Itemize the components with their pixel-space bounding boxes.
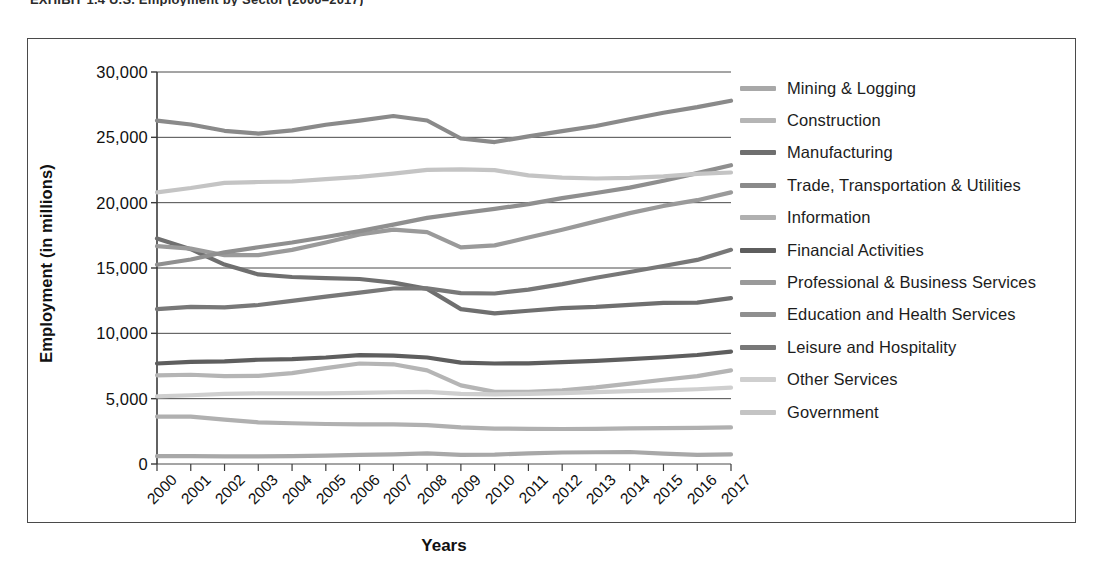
series-line [157, 417, 731, 429]
legend-swatch-icon [740, 215, 776, 220]
legend-item[interactable]: Construction [740, 104, 1040, 136]
legend-item-label: Government [787, 403, 879, 422]
x-tick-label: 2012 [549, 471, 586, 508]
legend-item[interactable]: Professional & Business Services [740, 266, 1040, 298]
series-line [157, 165, 731, 265]
x-tick-label: 2000 [144, 471, 181, 508]
legend-swatch-icon [740, 312, 776, 317]
series-lines [157, 72, 731, 464]
series-line [157, 101, 731, 142]
legend-item[interactable]: Government [740, 396, 1040, 428]
y-tick-label: 10,000 [74, 324, 148, 343]
legend-item-label: Professional & Business Services [787, 273, 1036, 292]
x-tick-label: 2014 [616, 471, 653, 508]
legend-item[interactable]: Other Services [740, 364, 1040, 396]
legend-item-label: Education and Health Services [787, 305, 1016, 324]
legend-item[interactable]: Trade, Transportation & Utilities [740, 169, 1040, 201]
legend-swatch-icon [740, 280, 776, 285]
series-line [157, 169, 731, 192]
x-tick-label: 2005 [312, 471, 349, 508]
legend-item[interactable]: Mining & Logging [740, 72, 1040, 104]
x-axis-title: Years [157, 536, 731, 556]
x-tick-label: 2004 [279, 471, 316, 508]
legend-item[interactable]: Information [740, 202, 1040, 234]
x-tick-label: 2007 [380, 471, 417, 508]
plot-area [157, 72, 731, 464]
legend-item[interactable]: Leisure and Hospitality [740, 331, 1040, 363]
legend-item[interactable]: Financial Activities [740, 234, 1040, 266]
legend-swatch-icon [740, 248, 776, 253]
legend-item-label: Financial Activities [787, 241, 924, 260]
series-line [157, 388, 731, 397]
legend-item[interactable]: Education and Health Services [740, 299, 1040, 331]
x-tick-label: 2003 [245, 471, 282, 508]
y-tick-label: 30,000 [74, 63, 148, 82]
x-tick-label: 2015 [650, 471, 687, 508]
legend-swatch-icon [740, 118, 776, 123]
y-axis-tick-labels: 05,00010,00015,00020,00025,00030,000 [70, 39, 148, 522]
y-tick-label: 25,000 [74, 128, 148, 147]
x-tick-label: 2013 [583, 471, 620, 508]
series-line [157, 352, 731, 364]
x-tick-label: 2016 [684, 471, 721, 508]
legend-item-label: Construction [787, 111, 881, 130]
legend-item-label: Mining & Logging [787, 79, 916, 98]
legend-item-label: Manufacturing [787, 143, 893, 162]
x-tick-label: 2010 [481, 471, 518, 508]
chart-legend: Mining & LoggingConstructionManufacturin… [740, 72, 1040, 428]
x-axis-tick-labels: 2000200120022003200420052006200720082009… [157, 471, 731, 531]
y-tick-label: 5,000 [74, 389, 148, 408]
x-tick-label: 2017 [718, 471, 755, 508]
x-tick-label: 2006 [346, 471, 383, 508]
figure-title: EXHIBIT 1.4 U.S. Employment by Sector (2… [30, 0, 363, 6]
y-tick-label: 15,000 [74, 259, 148, 278]
legend-swatch-icon [740, 86, 776, 91]
legend-swatch-icon [740, 345, 776, 350]
x-tick-label: 2001 [177, 471, 214, 508]
y-tick-label: 0 [74, 455, 148, 474]
legend-swatch-icon [740, 410, 776, 415]
y-tick-label: 20,000 [74, 193, 148, 212]
legend-swatch-icon [740, 377, 776, 382]
x-tick-label: 2008 [414, 471, 451, 508]
legend-item[interactable]: Manufacturing [740, 137, 1040, 169]
legend-swatch-icon [740, 183, 776, 188]
x-tick-label: 2002 [211, 471, 248, 508]
legend-item-label: Trade, Transportation & Utilities [787, 176, 1021, 195]
series-line [157, 192, 731, 255]
x-tick-label: 2009 [447, 471, 484, 508]
legend-item-label: Other Services [787, 370, 898, 389]
legend-swatch-icon [740, 150, 776, 155]
series-line [157, 364, 731, 392]
x-tick-label: 2011 [516, 471, 552, 507]
legend-item-label: Leisure and Hospitality [787, 338, 956, 357]
legend-item-label: Information [787, 208, 871, 227]
y-axis-title: Employment (in millions) [37, 94, 56, 434]
series-line [157, 452, 731, 456]
